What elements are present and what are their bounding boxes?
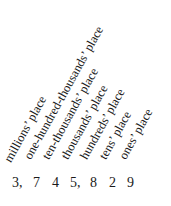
number-digits: 3, 7 4 5, 8 2 9 bbox=[0, 176, 171, 196]
digit-millions: 3, bbox=[12, 176, 23, 190]
digit-hundreds: 8 bbox=[90, 176, 97, 190]
digit-thousands: 5, bbox=[70, 176, 81, 190]
digit-tens: 2 bbox=[109, 176, 116, 190]
digit-hundred-thousands: 7 bbox=[33, 176, 40, 190]
digit-ten-thousands: 4 bbox=[52, 176, 59, 190]
digit-ones: 9 bbox=[127, 176, 134, 190]
